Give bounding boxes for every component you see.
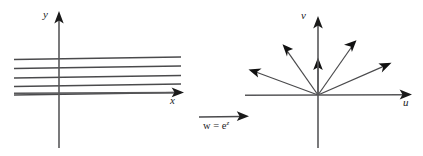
figure-container: y x v u w = ez: [0, 0, 423, 156]
horizontal-line: [14, 57, 181, 60]
mapping-equation: w = ez: [203, 121, 229, 132]
w-plane-group: [245, 16, 412, 148]
ray-fan: [249, 40, 392, 95]
z-plane-group: [14, 11, 184, 148]
ray-arrowhead: [344, 40, 357, 52]
u-axis-label: u: [403, 97, 409, 108]
mapping-arrow-shaft: [199, 116, 241, 117]
x-axis-label: x: [170, 95, 175, 106]
diagram-canvas: [0, 0, 423, 156]
x-axis-line: [14, 93, 175, 94]
mapping-equation-exponent: z: [226, 119, 229, 127]
horizontal-line: [14, 76, 181, 79]
y-axis-label: y: [43, 9, 48, 20]
ray: [257, 72, 319, 95]
horizontal-line: [14, 84, 181, 87]
horizontal-line-family: [14, 57, 181, 95]
ray: [288, 52, 318, 95]
horizontal-line: [14, 66, 181, 69]
ray-arrowhead: [283, 44, 294, 56]
v-axis-label: v: [301, 10, 306, 21]
mapping-equation-base: w = e: [203, 120, 226, 131]
